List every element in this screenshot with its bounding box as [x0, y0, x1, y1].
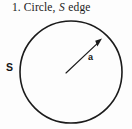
radius-arrowhead-icon: [95, 39, 102, 47]
region-label-s: S: [6, 61, 13, 73]
figure-container: 1. Circle, S edge S a: [0, 0, 132, 129]
radius-line: [66, 42, 99, 73]
circle-outline: [20, 21, 122, 123]
radius-label-a: a: [88, 52, 93, 63]
circle-diagram: [0, 0, 132, 129]
